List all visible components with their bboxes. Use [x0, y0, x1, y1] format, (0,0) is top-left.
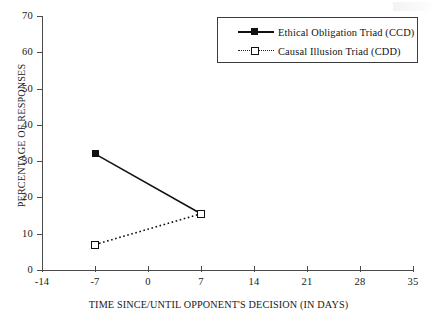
series-line-2: [95, 214, 201, 245]
legend-item-label: Ethical Obligation Triad (CCD): [278, 27, 414, 38]
data-point-marker: [197, 210, 205, 218]
data-point-marker: [91, 241, 99, 249]
legend-item-ethical-obligation-triad: Ethical Obligation Triad (CCD): [218, 24, 419, 40]
data-point-marker: [92, 150, 99, 157]
legend-swatch-solid-filled-square-icon: [236, 25, 276, 39]
x-axis-title: TIME SINCE/UNTIL OPPONENT'S DECISION (IN…: [0, 299, 437, 310]
line-chart-figure: 010203040506070 -14-70714212835 PERCENTA…: [0, 0, 437, 321]
series-line-1: [95, 154, 201, 214]
legend-swatch-dotted-open-square-icon: [236, 44, 276, 58]
chart-legend: Ethical Obligation Triad (CCD) Causal Il…: [217, 17, 418, 63]
legend-item-causal-illusion-triad: Causal Illusion Triad (CDD): [218, 43, 419, 59]
legend-item-label: Causal Illusion Triad (CDD): [278, 46, 401, 57]
y-axis-title: PERCENTAGE OF RESPONSES: [16, 36, 27, 236]
